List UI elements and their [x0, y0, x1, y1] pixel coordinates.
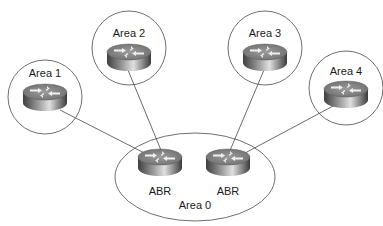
link-area2-abr-left: [128, 70, 165, 160]
area-3-label: Area 3: [249, 27, 281, 39]
router-icon: [138, 149, 182, 176]
area-2: Area 2: [92, 11, 166, 85]
ospf-area-diagram: Area 1 Area 2 Area 3 Area 4 ABR ABR Area…: [0, 0, 383, 226]
router-icon: [243, 44, 287, 71]
area-0-label: Area 0: [179, 199, 211, 211]
link-area4-abr-right: [232, 105, 335, 160]
area-1: Area 1: [8, 60, 82, 134]
area-1-label: Area 1: [29, 67, 61, 79]
router-icon: [324, 81, 368, 108]
abr-left-label: ABR: [149, 185, 172, 197]
area-4: Area 4: [309, 51, 383, 125]
abr-right-label: ABR: [217, 185, 240, 197]
link-area3-abr-right: [226, 70, 264, 160]
area-3: Area 3: [228, 11, 302, 85]
router-icon: [206, 149, 250, 176]
area-0-backbone: ABR ABR Area 0: [115, 133, 275, 221]
router-icon: [23, 84, 67, 111]
router-icon: [107, 44, 151, 71]
area-2-label: Area 2: [113, 27, 145, 39]
area-4-label: Area 4: [330, 65, 362, 77]
links: [60, 70, 335, 160]
